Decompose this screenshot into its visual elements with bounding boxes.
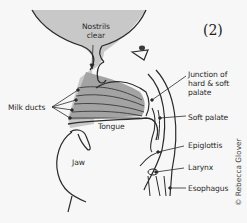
label-junction-hard-soft-palate: Junction of hard & soft palate <box>188 70 229 97</box>
label-tongue: Tongue <box>98 122 125 131</box>
label-epiglottis: Epiglottis <box>188 141 222 150</box>
breastfeeding-latch-diagram: Nostrils clear (2) Junction of hard & so… <box>0 0 247 223</box>
label-nostrils-clear: Nostrils clear <box>82 22 110 40</box>
figure-number: (2) <box>203 22 223 38</box>
label-larynx: Larynx <box>188 163 213 172</box>
eye-icon <box>132 50 148 60</box>
label-soft-palate: Soft palate <box>188 113 228 122</box>
copyright-credit: © Rebecca Glover <box>234 138 243 206</box>
jaw-outline <box>70 130 90 150</box>
label-milk-ducts: Milk ducts <box>8 103 45 112</box>
label-jaw: Jaw <box>72 158 85 167</box>
label-esophagus: Esophagus <box>188 184 228 193</box>
